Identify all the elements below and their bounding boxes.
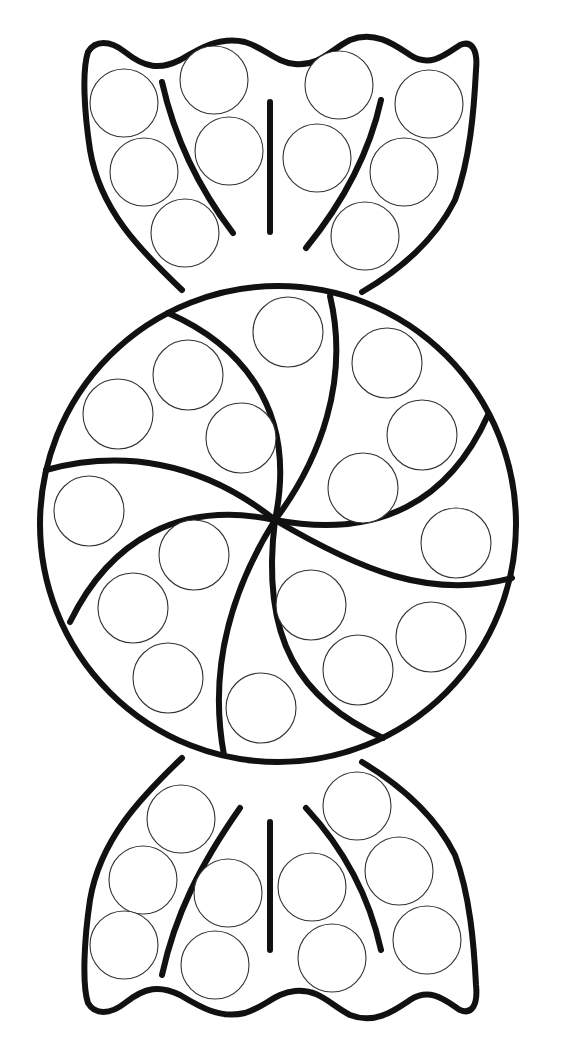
candy-coloring-figure <box>0 0 562 1055</box>
top-wrapper <box>84 37 476 292</box>
peppermint-swirl <box>40 286 516 762</box>
bottom-wrapper <box>84 758 476 1018</box>
